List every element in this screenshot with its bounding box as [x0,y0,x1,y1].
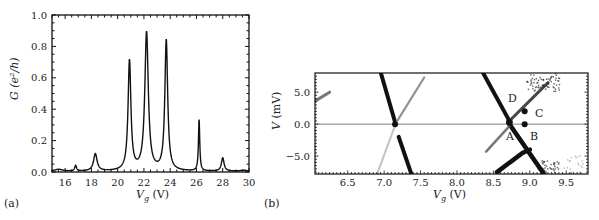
x-tick-label: 24 [164,177,177,188]
edge-band [399,137,412,175]
x-tick-label: 20 [111,177,124,188]
x-tick-label: 26 [190,177,203,188]
crossing-point [392,121,398,127]
panel-a-frame [52,15,249,172]
edge-band [381,72,396,123]
x-tick-label: 22 [138,177,151,188]
x-tick-label: 8.0 [449,177,465,188]
panel-b-xlabel: Vg (V) [433,188,466,203]
edge-band [482,72,509,121]
x-tick-label: 28 [216,177,229,188]
x-tick-label: 18 [85,177,98,188]
marker-dot [522,121,528,127]
y-tick-label: 0.2 [31,135,47,146]
y-tick-label: 1.0 [31,10,47,21]
crossing-point [506,119,513,126]
y-tick-label: 0.0 [294,119,310,130]
point-label-b: B [530,130,538,143]
figure: 16182022242628300.00.20.40.60.81.0 G (e²… [0,0,599,220]
y-tick-label: 5.0 [294,87,310,98]
x-tick-label: 7.0 [376,177,392,188]
y-tick-label: 0.6 [31,72,47,83]
x-tick-label: 7.5 [413,177,429,188]
edge-band [397,78,425,123]
x-tick-label: 16 [59,177,72,188]
panel-a-xlabel: Vg (V) [136,188,169,203]
x-tick-label: 9.0 [522,177,538,188]
edge-band [497,150,530,172]
x-tick-label: 30 [243,177,256,188]
point-label-d: D [508,92,517,105]
y-tick-label: 0.8 [31,41,47,52]
conductance-curve [52,31,249,171]
point-label-a: A [505,130,515,143]
panel-a-label: (a) [4,197,19,210]
panel-b-frame [315,73,588,174]
panel-a-chart: 16182022242628300.00.20.40.60.81.0 G (e²… [4,10,255,211]
stability-diagram [315,72,588,176]
y-tick-label: −5.0 [286,151,310,162]
edge-band [377,125,395,174]
point-label-c: C [535,107,543,120]
y-tick-label: 0.0 [31,167,47,178]
panel-b-label: (b) [264,197,280,210]
panel-b-chart: 6.57.07.58.08.59.09.55.00.0−5.0 V (mV) V… [264,72,588,210]
x-tick-label: 8.5 [485,177,501,188]
y-tick-label: 0.4 [31,104,47,115]
marker-dot [522,108,528,114]
panel-b-ylabel: V (mV) [270,92,283,130]
edge-band [315,92,330,101]
panel-a-ylabel: G (e²/h) [8,57,21,100]
x-tick-label: 6.5 [340,177,356,188]
x-tick-label: 9.5 [558,177,574,188]
